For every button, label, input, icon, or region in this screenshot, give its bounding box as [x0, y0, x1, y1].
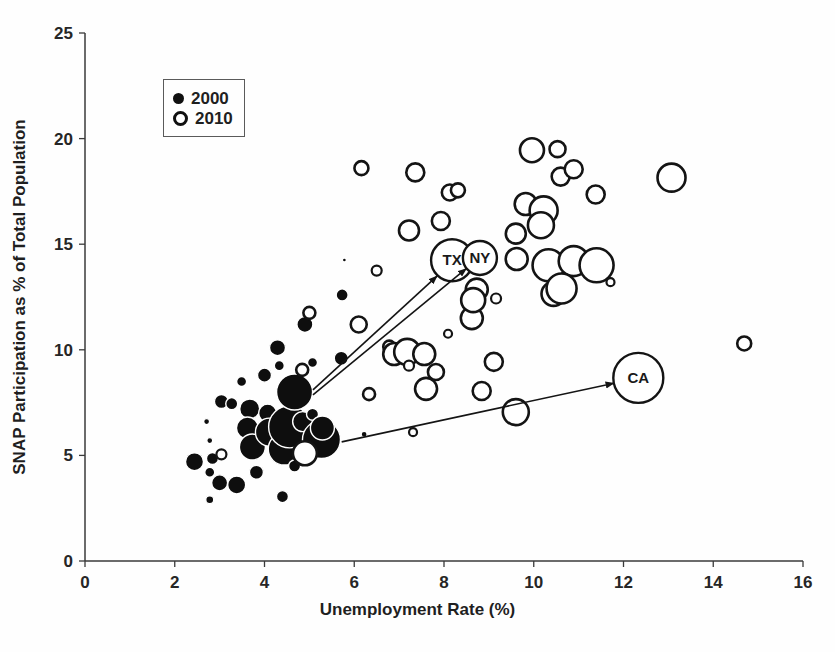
data-point-2000: [185, 453, 203, 471]
x-tick-label: 2: [170, 573, 179, 592]
data-point-2000: [226, 398, 238, 410]
data-point-2010: [293, 441, 317, 465]
data-point-2000: [258, 368, 272, 382]
x-tick-label: 14: [704, 573, 723, 592]
state-bubble-label-CA: CA: [627, 369, 649, 386]
data-point-2000: [240, 399, 260, 419]
data-point-2010: [296, 364, 308, 376]
x-tick-label: 4: [260, 573, 270, 592]
data-point-2010: [506, 248, 528, 270]
arrow-to-TX: [313, 276, 437, 390]
data-point-2010: [461, 288, 485, 312]
data-point-2010: [451, 183, 465, 197]
data-point-2000: [277, 374, 313, 410]
data-point-2000: [274, 361, 284, 371]
data-point-2010: [432, 212, 450, 230]
legend-item-2000: 2000: [173, 90, 244, 107]
y-tick-label: 10: [54, 341, 73, 360]
data-point-2010: [354, 161, 368, 175]
plot-svg: 02468101214160510152025TXNYCA: [0, 0, 835, 652]
data-point-2000: [206, 496, 214, 504]
data-point-2010: [658, 164, 686, 192]
y-tick-label: 0: [64, 552, 73, 571]
data-point-2000: [308, 357, 318, 367]
data-point-2000: [207, 438, 213, 444]
data-point-2010: [372, 266, 382, 276]
data-point-2010: [363, 388, 375, 400]
data-point-2000: [237, 376, 247, 386]
legend-label-2010: 2010: [195, 110, 233, 127]
data-point-2010: [606, 278, 614, 286]
data-point-2010: [428, 364, 444, 380]
data-point-2010: [413, 343, 435, 365]
data-point-2010: [406, 163, 424, 181]
data-point-2010: [409, 428, 417, 436]
legend-label-2000: 2000: [191, 90, 229, 107]
y-axis-title: SNAP Participation as % of Total Populat…: [10, 119, 30, 474]
data-point-2010: [587, 186, 605, 204]
data-point-2010: [303, 307, 315, 319]
x-tick-label: 12: [614, 573, 633, 592]
bubble-chart: 02468101214160510152025TXNYCA SNAP Parti…: [0, 0, 835, 652]
data-point-2010: [351, 316, 367, 332]
state-bubble-label-NY: NY: [469, 249, 490, 266]
data-point-2010: [528, 212, 554, 238]
legend: 2000 2010: [163, 79, 245, 137]
data-point-2010: [550, 141, 566, 157]
data-point-2010: [444, 330, 452, 338]
data-point-2000: [336, 289, 348, 301]
x-axis-title: Unemployment Rate (%): [0, 600, 835, 620]
y-tick-label: 20: [54, 130, 73, 149]
data-point-2010: [520, 138, 544, 162]
data-point-2010: [737, 336, 751, 350]
legend-item-2010: 2010: [173, 110, 244, 127]
x-tick-label: 8: [439, 573, 448, 592]
data-point-2000: [310, 416, 334, 440]
y-tick-label: 15: [54, 235, 73, 254]
data-point-2010: [473, 382, 491, 400]
data-point-2000: [276, 491, 288, 503]
data-point-2000: [212, 475, 228, 491]
data-point-2000: [228, 476, 246, 494]
data-point-2000: [249, 465, 263, 479]
data-point-2010: [216, 449, 226, 459]
y-tick-label: 25: [54, 24, 73, 43]
state-bubble-label-TX: TX: [442, 251, 461, 268]
data-point-2010: [404, 361, 414, 371]
data-point-2000: [270, 340, 286, 356]
data-point-2010: [565, 160, 583, 178]
data-point-2010: [485, 353, 503, 371]
data-point-2010: [399, 220, 419, 240]
x-tick-label: 10: [524, 573, 543, 592]
x-tick-label: 0: [80, 573, 89, 592]
open-circle-icon: [173, 111, 188, 126]
data-point-2010: [491, 293, 501, 303]
filled-circle-icon: [173, 93, 184, 104]
data-point-2010: [580, 248, 614, 282]
data-point-2010: [506, 224, 526, 244]
y-tick-label: 5: [64, 446, 73, 465]
data-point-2000: [204, 419, 210, 425]
data-point-2000: [342, 258, 346, 262]
x-tick-label: 16: [794, 573, 813, 592]
data-point-2010: [415, 378, 437, 400]
data-point-2000: [205, 467, 215, 477]
data-point-2010: [547, 274, 577, 304]
x-tick-label: 6: [350, 573, 359, 592]
